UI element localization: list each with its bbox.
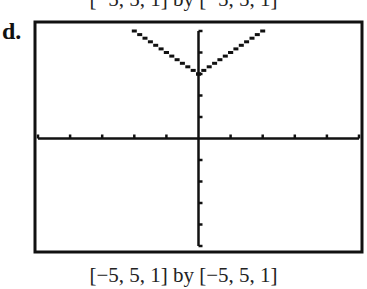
curve-pixel — [191, 69, 196, 72]
curve-pixel — [244, 40, 249, 43]
curve-pixel — [185, 65, 190, 68]
curve-pixel — [250, 37, 255, 40]
curve-pixel — [212, 62, 217, 65]
curve-pixel — [169, 55, 174, 58]
curve-pixel — [159, 47, 164, 50]
curve-pixel — [239, 44, 244, 47]
calculator-graph — [0, 0, 367, 289]
curve-pixel — [137, 33, 142, 36]
curve-pixel — [143, 37, 148, 40]
curve-pixel — [153, 44, 158, 47]
curve-pixel — [196, 73, 201, 76]
window-caption: [−5, 5, 1] by [−5, 5, 1] — [0, 263, 367, 287]
curve-pixel — [255, 33, 260, 36]
curve-pixel — [148, 40, 153, 43]
curve-pixel — [223, 55, 228, 58]
curve-pixel — [260, 30, 265, 33]
curve-pixel — [201, 69, 206, 72]
curve-pixel — [132, 30, 137, 33]
curve-pixel — [233, 47, 238, 50]
curve-pixel — [175, 58, 180, 61]
curve-pixel — [217, 58, 222, 61]
curve-pixel — [228, 51, 233, 54]
curve-pixel — [164, 51, 169, 54]
curve-pixel — [180, 62, 185, 65]
curve-pixel — [207, 65, 212, 68]
